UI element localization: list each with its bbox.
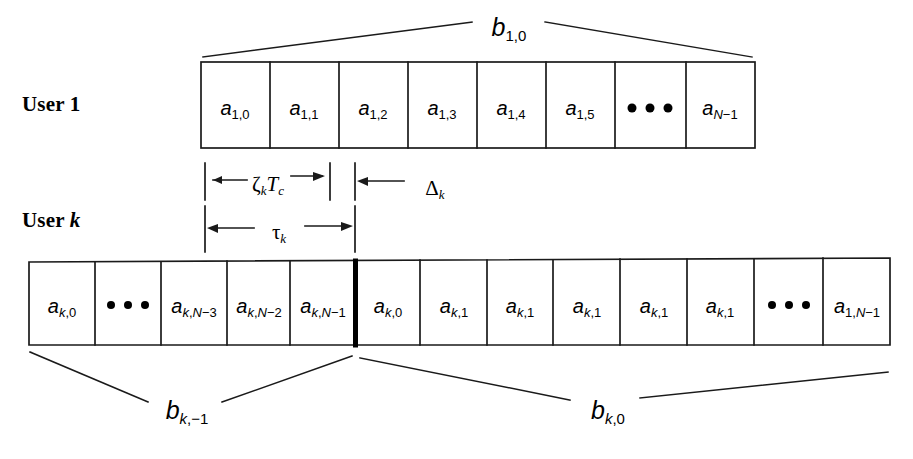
cell-userk-0: ak,0 <box>48 296 76 316</box>
bracket-label-bk-minus1: bk,−1 <box>166 398 209 423</box>
cell-user1-3: a1,3 <box>427 98 456 118</box>
cell-userk-6: ak,1 <box>440 296 468 316</box>
cell-userk-8: ak,1 <box>573 296 601 316</box>
cell-userk-n2: ak,N−2 <box>236 296 281 316</box>
user1-row-label: User 1 <box>22 92 81 117</box>
measure-label-delta-k: Δk <box>425 178 444 199</box>
cell-userk-7: ak,1 <box>506 296 534 316</box>
diagram-vector-layer <box>0 0 913 459</box>
figure-canvas: User 1 User k b1,0 a1,0 a1,1 a1,2 a1,3 a… <box>0 0 913 459</box>
bracket-bk-minus1 <box>30 352 352 402</box>
cell-userk-ellipsis-left <box>107 301 149 309</box>
cell-user1-ellipsis <box>628 104 673 113</box>
arrow-delta-k <box>357 177 404 186</box>
cell-user1-2: a1,2 <box>358 98 387 118</box>
cell-user1-5: a1,5 <box>565 98 594 118</box>
cell-userk-10: ak,1 <box>706 296 734 316</box>
cell-user1-4: a1,4 <box>496 98 525 118</box>
measure-label-zeta-tc: ζkTc <box>252 174 284 195</box>
cell-user1-0: a1,0 <box>220 98 249 118</box>
cell-userk-last: a1,N−1 <box>834 296 880 316</box>
cell-userk-n1: ak,N−1 <box>300 296 345 316</box>
cell-userk-ellipsis-right <box>768 301 810 309</box>
bracket-label-bk0: bk,0 <box>591 398 625 423</box>
cell-userk-9: ak,1 <box>640 296 668 316</box>
cell-userk-5: ak,0 <box>374 296 402 316</box>
cell-user1-1: a1,1 <box>289 98 318 118</box>
cell-userk-n3: ak,N−3 <box>171 296 216 316</box>
bracket-label-b10: b1,0 <box>492 15 527 40</box>
bracket-b10 <box>203 22 752 57</box>
bracket-bk0 <box>360 358 888 400</box>
measure-label-tau-k: τk <box>272 222 286 243</box>
userk-row-label: User k <box>22 208 81 233</box>
cell-user1-last: aN−1 <box>702 98 737 118</box>
